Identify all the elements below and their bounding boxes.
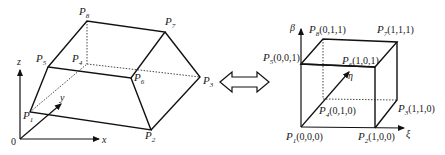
left-hexahedron: z x y 0 P1 P2 P3 P4 P5 P6 P7 P8 xyxy=(11,5,214,147)
vertex-label-p1: P1 xyxy=(22,109,33,124)
right-unit-cube: β ξ η P1(0,0,0) P2(1,0,0) P3(1,1,0) P4(0… xyxy=(262,22,435,145)
diagram-canvas: z x y 0 P1 P2 P3 P4 P5 P6 P7 P8 β ξ η P1… xyxy=(0,0,445,155)
vertex-label-p6: P6 xyxy=(133,71,145,86)
vertex-label-p3: P3 xyxy=(202,74,214,89)
cube-label-p2: P2(1,0,0) xyxy=(357,130,395,145)
left-axes xyxy=(20,70,99,139)
right-face-edges xyxy=(151,32,200,130)
xi-axis-label: ξ xyxy=(406,128,411,140)
cube-label-p3: P3(1,1,0) xyxy=(397,102,435,117)
vertex-label-p5: P5 xyxy=(35,52,47,67)
cube-front-edges xyxy=(301,64,375,128)
cube-label-p1: P1(0,0,0) xyxy=(285,130,323,145)
cube-label-p4: P4(0,1,0) xyxy=(318,104,356,119)
vertex-label-p7: P7 xyxy=(164,15,176,30)
beta-axis-label: β xyxy=(289,22,295,33)
eta-axis-label: η xyxy=(348,70,353,81)
hidden-edge-p4-p3 xyxy=(323,99,397,100)
xi-axis xyxy=(301,127,404,128)
vertex-label-p8: P8 xyxy=(78,5,90,20)
top-face xyxy=(48,21,165,78)
cube-label-p8: P8(0,1,1) xyxy=(308,23,346,38)
origin-label: 0 xyxy=(11,136,16,147)
double-arrow-icon xyxy=(220,72,269,92)
z-axis-label: z xyxy=(16,56,21,67)
vertex-label-p2: P2 xyxy=(144,129,156,144)
cube-label-p7: P7(1,1,1) xyxy=(376,23,414,38)
cube-label-p5: P5(0,0,1) xyxy=(262,51,300,66)
x-axis-label: x xyxy=(101,134,107,145)
y-axis-label: y xyxy=(59,92,65,103)
vertex-label-p4: P4 xyxy=(71,52,83,67)
